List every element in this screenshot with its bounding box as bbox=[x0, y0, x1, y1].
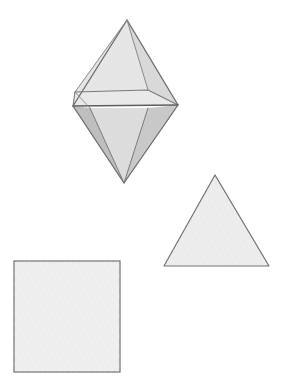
square-shape bbox=[14, 261, 120, 372]
triangle-shape bbox=[164, 175, 269, 266]
shapes-drawing bbox=[0, 0, 287, 382]
octahedron-shape bbox=[73, 20, 178, 183]
sketch-canvas: Octahedron Triangle Square bbox=[0, 0, 287, 382]
